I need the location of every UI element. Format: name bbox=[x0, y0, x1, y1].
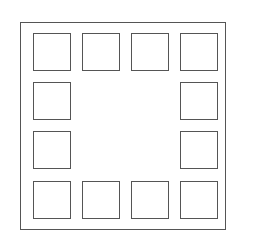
square-4 bbox=[180, 33, 218, 71]
square-5 bbox=[33, 82, 71, 120]
square-9 bbox=[33, 181, 71, 219]
square-7 bbox=[33, 131, 71, 169]
square-8 bbox=[180, 131, 218, 169]
square-2 bbox=[82, 33, 120, 71]
square-3 bbox=[131, 33, 169, 71]
square-10 bbox=[82, 181, 120, 219]
square-1 bbox=[33, 33, 71, 71]
square-11 bbox=[131, 181, 169, 219]
square-6 bbox=[180, 82, 218, 120]
square-12 bbox=[180, 181, 218, 219]
